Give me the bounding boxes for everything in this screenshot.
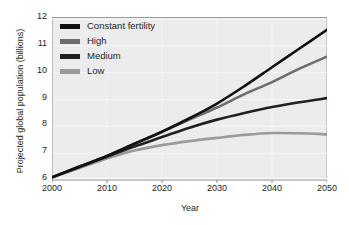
chart-figure: Projected global population (billions) Y… (0, 0, 349, 225)
series-line-medium (52, 98, 327, 177)
x-tick-2010: 2010 (87, 183, 127, 193)
y-tick-12: 12 (29, 11, 47, 21)
x-tick-2000: 2000 (32, 183, 72, 193)
x-tick-2030: 2030 (197, 183, 237, 193)
y-axis-title: Projected global population (billions) (15, 11, 25, 191)
y-tick-9: 9 (29, 92, 47, 102)
y-tick-7: 7 (29, 145, 47, 155)
legend-item: High (60, 34, 200, 48)
y-tick-10: 10 (29, 65, 47, 75)
legend-label: High (87, 36, 107, 46)
legend-label: Constant fertility (87, 21, 155, 31)
legend-item: Constant fertility (60, 19, 200, 33)
legend-label: Low (87, 66, 104, 76)
y-tick-11: 11 (29, 38, 47, 48)
x-axis-title: Year (52, 203, 328, 213)
x-tick-2040: 2040 (252, 183, 292, 193)
series-line-low (52, 133, 327, 177)
x-tick-2020: 2020 (142, 183, 182, 193)
legend-item: Medium (60, 49, 200, 63)
y-tick-8: 8 (29, 118, 47, 128)
legend-item: Low (60, 64, 200, 78)
legend-swatch-medium (60, 54, 80, 59)
x-tick-2050: 2050 (307, 183, 347, 193)
y-tick-6: 6 (29, 172, 47, 182)
legend-swatch-low (60, 69, 80, 74)
chart-legend: Constant fertility High Medium Low (60, 19, 200, 79)
legend-swatch-constant-fertility (60, 24, 80, 29)
legend-swatch-high (60, 39, 80, 44)
legend-label: Medium (87, 51, 121, 61)
